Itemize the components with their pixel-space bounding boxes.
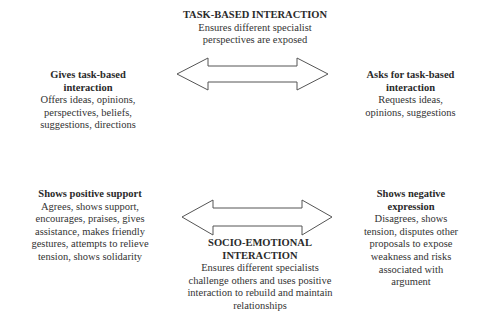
task-based-double-arrow-icon [177,58,328,90]
socio-emotional-double-arrow-icon [182,200,332,235]
arrows-layer [0,0,481,329]
